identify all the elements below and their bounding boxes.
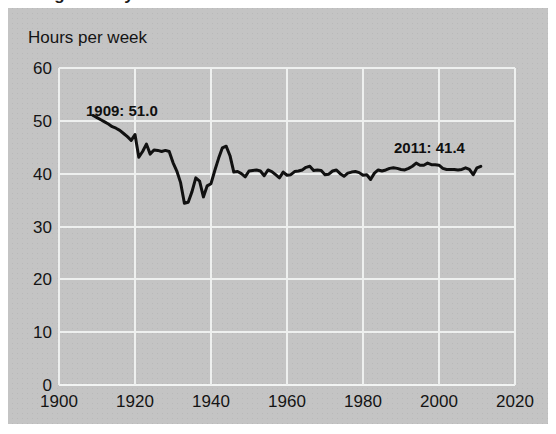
x-tick-1960: 1960 xyxy=(252,393,322,410)
chart-panel: Hours per week 0102030405060 19001920194… xyxy=(8,8,548,424)
y-tick-40: 40 xyxy=(18,166,52,183)
y-axis-title: Hours per week xyxy=(28,28,147,48)
y-tick-60: 60 xyxy=(18,60,52,77)
chart-figure: Average weekly hours Hours per week 0102… xyxy=(0,0,556,434)
end-annotation: 2011: 41.4 xyxy=(394,139,465,156)
x-tick-2020: 2020 xyxy=(480,393,548,410)
y-axis-tick-labels: 0102030405060 xyxy=(8,68,52,385)
y-tick-50: 50 xyxy=(18,113,52,130)
x-tick-1900: 1900 xyxy=(24,393,94,410)
start-annotation: 1909: 51.0 xyxy=(86,102,158,119)
y-tick-10: 10 xyxy=(18,324,52,341)
x-tick-1940: 1940 xyxy=(176,393,246,410)
y-tick-20: 20 xyxy=(18,271,52,288)
x-axis-tick-labels: 1900192019401960198020002020 xyxy=(59,393,515,419)
x-tick-1920: 1920 xyxy=(100,393,170,410)
x-tick-1980: 1980 xyxy=(328,393,398,410)
page-title: Average weekly hours xyxy=(8,0,185,5)
y-tick-30: 30 xyxy=(18,219,52,236)
x-tick-2000: 2000 xyxy=(404,393,474,410)
